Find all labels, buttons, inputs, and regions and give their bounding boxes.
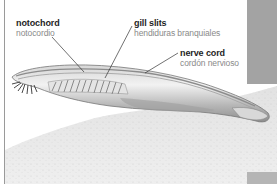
nerve-cord-leader	[145, 53, 178, 73]
label-nerve-cord: nerve cord cordón nervioso	[180, 48, 239, 68]
label-gill-slits-en: gill slits	[134, 18, 220, 28]
diagram-canvas: notochord notocordio gill slits hendidur…	[0, 0, 277, 184]
label-nerve-cord-en: nerve cord	[180, 48, 239, 58]
label-notochord-es: notocordio	[16, 28, 60, 38]
label-notochord: notochord notocordio	[16, 18, 60, 38]
label-notochord-en: notochord	[16, 18, 60, 28]
label-nerve-cord-es: cordón nervioso	[180, 58, 239, 68]
label-gill-slits-es: hendiduras branquiales	[134, 28, 220, 38]
label-gill-slits: gill slits hendiduras branquiales	[134, 18, 220, 38]
